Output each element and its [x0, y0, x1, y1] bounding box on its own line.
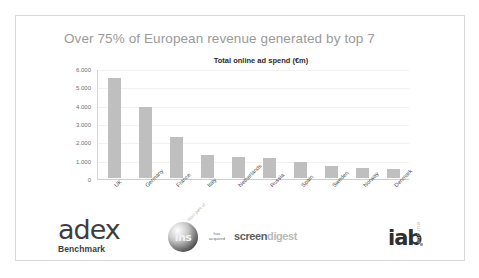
y-axis-tick: 2.000	[76, 140, 91, 146]
y-axis-tick: 0	[88, 177, 91, 183]
y-axis: 6.0005.0004.0003.0002.0001.0000	[61, 70, 95, 180]
y-axis-tick: 1.000	[76, 159, 91, 165]
ihs-wordmark: ihs	[175, 232, 192, 243]
screendigest-wordmark: screendigest	[234, 230, 297, 242]
iab-region-label: europe	[416, 222, 422, 244]
bar-chart: Total online ad spend (€m) 6.0005.0004.0…	[61, 56, 416, 216]
screendigest-digest: digest	[267, 230, 297, 242]
bar	[294, 162, 307, 178]
plot-area	[97, 70, 409, 180]
bar	[325, 166, 338, 178]
bar	[232, 157, 245, 178]
bar	[108, 78, 121, 178]
iab-europe-logo: iab europe	[388, 222, 458, 256]
slide-frame: Over 75% of European revenue generated b…	[15, 15, 465, 261]
adex-benchmark-logo: adex Benchmark	[58, 216, 168, 254]
plot-wrapper: 6.0005.0004.0003.0002.0001.0000 UKGerman…	[61, 70, 416, 192]
ihs-globe-icon: ihs	[168, 222, 198, 252]
bar	[263, 158, 276, 178]
y-axis-tick: 5.000	[76, 85, 91, 91]
y-axis-tick: 3.000	[76, 122, 91, 128]
logo-row: adex Benchmark Now part of ihs has acqui…	[16, 212, 466, 260]
bar	[387, 169, 400, 178]
bar-series	[99, 70, 409, 178]
adex-benchmark-label: Benchmark	[58, 244, 168, 254]
y-axis-tick: 6.000	[76, 67, 91, 73]
bar	[139, 107, 152, 179]
ihs-screendigest-logo: Now part of ihs has acquired screendiges…	[168, 218, 358, 256]
y-axis-tick: 4.000	[76, 104, 91, 110]
bar	[170, 137, 183, 178]
bar	[201, 155, 214, 178]
has-acquired-label: has acquired	[206, 231, 228, 241]
screendigest-screen: screen	[234, 230, 267, 242]
slide-title: Over 75% of European revenue generated b…	[64, 31, 444, 46]
bar	[356, 168, 369, 178]
adex-wordmark: adex	[58, 216, 168, 243]
chart-title: Total online ad spend (€m)	[121, 56, 401, 65]
